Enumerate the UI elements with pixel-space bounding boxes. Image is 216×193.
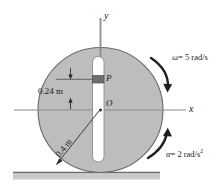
center-point-o — [99, 109, 102, 112]
point-label-o: O — [106, 99, 113, 108]
point-label-p: P — [106, 74, 112, 83]
alpha-value: = 2 rad/s — [170, 149, 200, 159]
mechanics-figure: y x P O 0.24 m 0.4 m ω= 5 rad/s α= 2 rad… — [0, 0, 216, 193]
figure-canvas — [0, 0, 216, 193]
angular-acceleration-label: α= 2 rad/s2 — [166, 149, 203, 158]
ground-surface — [13, 173, 160, 180]
disk-slot — [93, 57, 105, 163]
dimension-label-offset: 0.24 m — [38, 87, 63, 96]
omega-value: = 5 rad/s — [178, 52, 208, 62]
slider-block-p — [93, 76, 104, 84]
y-axis-label: y — [104, 11, 108, 21]
x-axis-label: x — [189, 104, 193, 114]
angular-velocity-label: ω= 5 rad/s — [172, 53, 208, 62]
alpha-exponent: 2 — [200, 148, 203, 154]
